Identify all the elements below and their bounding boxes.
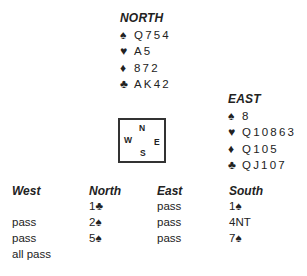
north-spades-row: ♠Q754 [120,27,171,44]
bid-north: 2♠ [89,216,102,228]
north-diamonds-cards: 872 [134,62,160,74]
bid-east: pass [157,200,181,212]
diamond-icon: ♦ [228,141,242,158]
bid-south: 7♠ [229,232,242,244]
club-icon: ♣ [228,157,242,174]
bid-east: pass [157,232,181,244]
bid-south: 4NT [229,216,251,228]
compass-west-label: W [124,135,132,145]
east-title: EAST [228,91,296,108]
bid-north: 5♠ [89,232,102,244]
bid-south: 1♠ [229,200,242,212]
spade-icon: ♠ [228,108,242,125]
north-hearts-cards: A5 [134,45,152,57]
compass-north-label: N [139,123,145,133]
east-hearts-cards: Q10863 [242,126,296,138]
east-clubs-row: ♣QJ107 [228,157,296,174]
north-title: NORTH [120,10,171,27]
north-spades-cards: Q754 [134,29,171,41]
east-hearts-row: ♥Q10863 [228,124,296,141]
east-spades-cards: 8 [242,110,251,122]
bid-west: pass [12,216,36,228]
bidding-header-north: North [89,184,121,198]
bid-north: 1♣ [89,200,103,212]
compass-east-label: E [154,137,160,147]
east-spades-row: ♠8 [228,108,296,125]
spade-icon: ♠ [120,27,134,44]
heart-icon: ♥ [120,43,134,60]
east-hand: EAST ♠8 ♥Q10863 ♦Q105 ♣QJ107 [228,91,296,174]
north-hearts-row: ♥A5 [120,43,171,60]
club-icon: ♣ [120,76,134,93]
diamond-icon: ♦ [120,60,134,77]
north-clubs-row: ♣AK42 [120,76,171,93]
east-clubs-cards: QJ107 [242,159,287,171]
compass-south-label: S [140,148,146,158]
bidding-header-south: South [229,184,263,198]
bidding-header-west: West [12,184,40,198]
bid-east: pass [157,216,181,228]
heart-icon: ♥ [228,124,242,141]
east-diamonds-cards: Q105 [242,143,279,155]
north-diamonds-row: ♦872 [120,60,171,77]
east-diamonds-row: ♦Q105 [228,141,296,158]
bid-west: pass [12,232,36,244]
compass-box: N W E S [118,118,166,163]
north-hand: NORTH ♠Q754 ♥A5 ♦872 ♣AK42 [120,10,171,93]
bidding-header-east: East [157,184,182,198]
bid-west: all pass [12,248,51,260]
north-clubs-cards: AK42 [134,78,171,90]
